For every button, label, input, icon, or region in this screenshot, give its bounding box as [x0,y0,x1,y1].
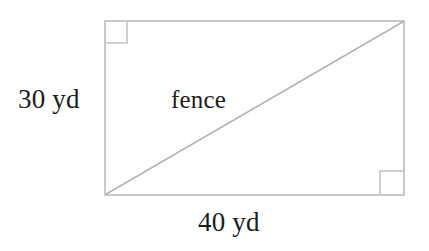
diagonal-fence-line [106,22,404,195]
fence-label: fence [171,87,226,112]
geometry-figure: 30 yd fence 40 yd [0,0,429,251]
right-angle-marker-bottom-right [380,171,404,195]
right-angle-marker-top-left [105,21,127,43]
width-label: 40 yd [198,209,260,236]
height-label: 30 yd [18,86,80,113]
